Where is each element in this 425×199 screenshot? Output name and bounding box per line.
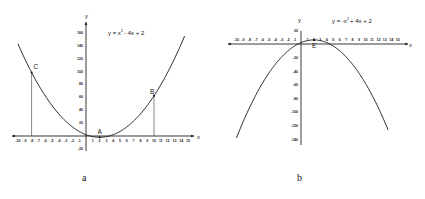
point-label: E (312, 42, 317, 49)
y-tick-label: 140 (77, 44, 83, 48)
x-tick-label: -9 (241, 38, 244, 42)
y-tick-label: -20 (78, 147, 83, 151)
chart-a-parabola-up: y x -10-9-8-7-6-5-4-3-2-1123456789101112… (12, 13, 200, 183)
y-tick-label: 100 (77, 70, 83, 74)
y-tick-label: -40 (293, 70, 298, 74)
x-tick-label: 4 (112, 139, 114, 143)
x-tick-label: -5 (267, 38, 270, 42)
data-point (313, 39, 315, 41)
y-tick-label: 120 (77, 57, 83, 61)
x-tick-label: -6 (261, 38, 264, 42)
x-tick-label: 14 (389, 38, 393, 42)
chart-a-curve (18, 36, 185, 137)
chart-b-curve (237, 40, 389, 138)
x-tick-label: 13 (172, 139, 176, 143)
y-tick-label: 20 (79, 121, 83, 125)
x-tick-label: 5 (119, 139, 121, 143)
chart-b-y-label: y (298, 17, 301, 23)
chart-a-x-label: x (197, 134, 200, 140)
x-tick-label: 11 (370, 38, 374, 42)
x-tick-label: 10 (364, 38, 368, 42)
chart-a-points: ABC (31, 63, 155, 138)
chart-b-x-label: x (409, 42, 412, 48)
x-tick-label: 9 (146, 139, 148, 143)
x-tick-label: -3 (64, 139, 67, 143)
chart-a-x-tick-labels: -10-9-8-7-6-5-4-3-2-11234567891011121314… (15, 139, 190, 143)
y-tick-label: -120 (291, 124, 298, 128)
x-tick-label: -10 (234, 38, 239, 42)
y-tick-label: -140 (291, 138, 298, 142)
chart-a-y-label: y (85, 13, 88, 19)
x-tick-label: 1 (92, 139, 94, 143)
y-tick-label: -100 (291, 110, 298, 114)
chart-b-equation: y = -x2+ 4x + 2 (332, 16, 372, 24)
x-tick-label: 9 (358, 38, 360, 42)
x-tick-label: 3 (319, 38, 321, 42)
x-tick-label: -8 (248, 38, 251, 42)
x-tick-label: -6 (44, 139, 47, 143)
x-tick-label: 3 (105, 139, 107, 143)
x-tick-label: 15 (186, 139, 190, 143)
point-label: B (150, 88, 154, 95)
y-tick-label: 160 (77, 31, 83, 35)
y-tick-label: 40 (79, 108, 83, 112)
data-point (99, 136, 101, 138)
x-tick-label: -3 (280, 38, 283, 42)
x-tick-label: 15 (396, 38, 400, 42)
y-tick-label: -80 (293, 97, 298, 101)
chart-a-caption: a (82, 172, 87, 183)
chart-b-parabola-down: y x -10-9-8-7-6-5-4-3-2-1123456789101112… (228, 16, 412, 183)
x-tick-label: 12 (166, 139, 170, 143)
point-label: A (98, 128, 103, 135)
data-point (153, 95, 155, 97)
x-tick-label: -1 (293, 38, 296, 42)
x-tick-label: 10 (152, 139, 156, 143)
point-label: C (34, 63, 39, 70)
x-tick-label: 12 (376, 38, 380, 42)
y-tick-label: 60 (79, 95, 83, 99)
figure-canvas: y x -10-9-8-7-6-5-4-3-2-1123456789101112… (0, 0, 425, 199)
x-tick-label: -7 (37, 139, 40, 143)
x-tick-label: -10 (15, 139, 20, 143)
y-tick-label: -20 (293, 56, 298, 60)
x-tick-label: 7 (133, 139, 135, 143)
x-tick-label: 13 (383, 38, 387, 42)
x-tick-label: -2 (71, 139, 74, 143)
x-tick-label: 2 (99, 139, 101, 143)
y-tick-label: 20 (294, 29, 298, 33)
x-tick-label: -8 (30, 139, 33, 143)
x-tick-label: -7 (254, 38, 257, 42)
x-tick-label: 8 (352, 38, 354, 42)
x-tick-label: 6 (126, 139, 128, 143)
x-tick-label: 8 (139, 139, 141, 143)
x-tick-label: -2 (286, 38, 289, 42)
y-tick-label: -60 (293, 83, 298, 87)
x-tick-label: -9 (23, 139, 26, 143)
x-tick-label: -1 (78, 139, 81, 143)
x-tick-label: 6 (339, 38, 341, 42)
x-tick-label: 4 (326, 38, 328, 42)
x-tick-label: 5 (332, 38, 334, 42)
x-tick-label: 1 (306, 38, 308, 42)
chart-b-caption: b (297, 172, 302, 183)
x-tick-label: 11 (159, 139, 163, 143)
x-tick-label: -5 (50, 139, 53, 143)
data-point (31, 71, 33, 73)
x-tick-label: -4 (274, 38, 277, 42)
x-tick-label: 7 (345, 38, 347, 42)
y-tick-label: 80 (79, 82, 83, 86)
x-tick-label: -4 (57, 139, 60, 143)
x-tick-label: 14 (179, 139, 183, 143)
chart-a-equation: y = x2- 4x + 2 (108, 28, 145, 36)
